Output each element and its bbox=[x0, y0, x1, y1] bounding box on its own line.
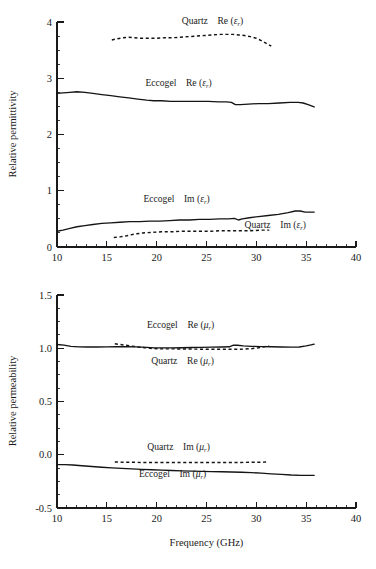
x-tick-label: 10 bbox=[52, 513, 63, 524]
x-tick-label: 20 bbox=[151, 252, 162, 263]
permittivity-root: 1015202530354001234Relative permittivity… bbox=[7, 15, 361, 263]
series-label-part: Im ( bbox=[183, 441, 199, 453]
y-tick-label: 1 bbox=[47, 185, 52, 196]
series-label: Eccogel Re (μr) bbox=[147, 319, 214, 331]
x-axis-title: Frequency (GHz) bbox=[170, 537, 244, 549]
permittivity-plot-svg: 1015202530354001234Relative permittivity… bbox=[0, 0, 376, 285]
series-label-part: Im ( bbox=[184, 193, 200, 205]
series-label: Quartz Re (εr) bbox=[182, 15, 244, 27]
series-label-material: Eccogel bbox=[139, 468, 180, 479]
figure-container: 1015202530354001234Relative permittivity… bbox=[0, 0, 376, 569]
series-curve bbox=[57, 344, 314, 348]
x-tick-label: 25 bbox=[201, 252, 212, 263]
series-curve bbox=[114, 230, 269, 237]
permeability-plot-svg: 10152025303540-0.50.00.51.01.5Relative p… bbox=[0, 285, 376, 569]
permeability-root: 10152025303540-0.50.00.51.01.5Relative p… bbox=[7, 290, 361, 549]
series-label-material: Eccogel bbox=[147, 319, 188, 330]
y-tick-label: 3 bbox=[47, 73, 52, 84]
y-tick-label: 2 bbox=[47, 129, 52, 140]
x-tick-label: 30 bbox=[251, 513, 262, 524]
series-group: Eccogel Re (μr)Quartz Re (μr)Quartz Im (… bbox=[57, 319, 314, 480]
x-tick-label: 20 bbox=[151, 513, 162, 524]
series-label: Eccogel Im (μr) bbox=[139, 468, 206, 480]
series-label-part: Re ( bbox=[187, 355, 203, 367]
x-tick-label: 40 bbox=[351, 513, 362, 524]
y-tick-label: -0.5 bbox=[35, 503, 52, 514]
y-tick-label: 1.5 bbox=[39, 290, 52, 301]
series-label-part: Re ( bbox=[217, 15, 233, 27]
series-label-paren: ) bbox=[209, 77, 212, 89]
x-tick-label: 40 bbox=[351, 252, 362, 263]
series-label-part: Re ( bbox=[186, 77, 202, 89]
x-tick-label: 10 bbox=[52, 252, 63, 263]
series-label: Quartz Im (εr) bbox=[245, 219, 307, 231]
series-label-paren: ) bbox=[303, 219, 306, 231]
y-tick-label: 0 bbox=[47, 242, 52, 253]
series-label-material: Quartz bbox=[147, 441, 183, 452]
x-ticks-group: 10152025303540 bbox=[52, 241, 362, 264]
series-label: Eccogel Re (εr) bbox=[145, 77, 211, 89]
x-tick-label: 35 bbox=[301, 513, 312, 524]
x-tick-label: 15 bbox=[102, 252, 113, 263]
series-curve bbox=[115, 462, 268, 463]
series-label-part: Re ( bbox=[187, 319, 203, 331]
chart-permeability: 10152025303540-0.50.00.51.01.5Relative p… bbox=[0, 285, 376, 569]
series-label-part: Im ( bbox=[280, 219, 296, 231]
y-ticks-group: 01234 bbox=[47, 17, 64, 253]
y-tick-label: 1.0 bbox=[39, 343, 52, 354]
series-label-material: Quartz bbox=[151, 355, 187, 366]
series-label-material: Eccogel bbox=[145, 77, 186, 88]
series-label-paren: ) bbox=[211, 355, 214, 367]
y-tick-label: 0.5 bbox=[39, 396, 52, 407]
series-label: Quartz Re (μr) bbox=[151, 355, 214, 367]
series-label-paren: ) bbox=[211, 319, 214, 331]
series-label-material: Eccogel bbox=[143, 193, 184, 204]
y-ticks-group: -0.50.00.51.01.5 bbox=[35, 290, 63, 514]
x-tick-label: 30 bbox=[251, 252, 262, 263]
x-tick-label: 35 bbox=[301, 252, 312, 263]
series-label-paren: ) bbox=[203, 468, 206, 480]
series-curve bbox=[112, 34, 271, 46]
y-tick-label: 4 bbox=[47, 17, 53, 28]
series-curve bbox=[57, 92, 314, 107]
x-tick-label: 25 bbox=[201, 513, 212, 524]
series-label: Eccogel Im (εr) bbox=[143, 193, 209, 205]
series-label-material: Quartz bbox=[245, 219, 281, 230]
x-ticks-group: 10152025303540 bbox=[52, 502, 362, 525]
x-tick-label: 15 bbox=[102, 513, 113, 524]
chart-permittivity: 1015202530354001234Relative permittivity… bbox=[0, 0, 376, 285]
series-group: Quartz Re (εr)Eccogel Re (εr)Eccogel Im … bbox=[57, 15, 314, 238]
y-axis-title: Relative permeability bbox=[7, 355, 18, 446]
series-label-paren: ) bbox=[240, 15, 243, 27]
series-label: Quartz Im (μr) bbox=[147, 441, 210, 453]
y-axis-title: Relative permittivity bbox=[7, 90, 18, 178]
series-label-part: Im ( bbox=[179, 468, 195, 480]
series-label-material: Quartz bbox=[182, 15, 218, 26]
series-label-paren: ) bbox=[207, 193, 210, 205]
series-label-paren: ) bbox=[207, 441, 210, 453]
axes-group bbox=[57, 22, 356, 247]
y-tick-label: 0.0 bbox=[39, 449, 52, 460]
